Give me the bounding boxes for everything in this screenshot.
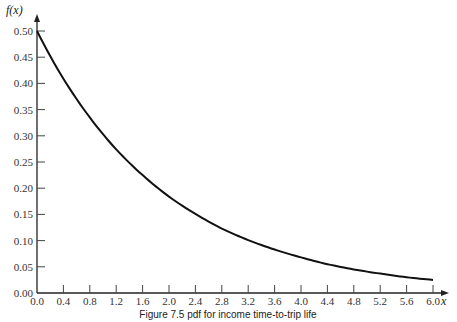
x-tick-label: 5.6	[400, 295, 414, 307]
y-axis-arrow-icon	[34, 14, 40, 22]
pdf-chart: 0.000.050.100.150.200.250.300.350.400.45…	[0, 0, 457, 322]
x-tick-label: 6.0	[426, 295, 440, 307]
y-tick-label: 0.50	[14, 25, 34, 37]
y-tick-label: 0.35	[14, 104, 34, 116]
x-tick-label: 1.6	[136, 295, 150, 307]
x-tick-label: 0.4	[57, 295, 71, 307]
y-tick-label: 0.30	[14, 130, 34, 142]
figure-caption: Figure 7.5 pdf for income time-to-trip l…	[139, 309, 317, 320]
y-axis-title: f(x)	[6, 3, 23, 17]
x-tick-label: 3.6	[268, 295, 282, 307]
x-tick-label: 4.0	[294, 295, 308, 307]
y-tick-label: 0.05	[14, 261, 34, 273]
x-tick-label: 2.8	[215, 295, 229, 307]
x-tick-label: 4.4	[321, 295, 335, 307]
x-tick-label: 2.4	[189, 295, 203, 307]
y-tick-label: 0.25	[14, 156, 34, 168]
y-tick-label: 0.40	[14, 77, 34, 89]
x-tick-label: 2.0	[162, 295, 176, 307]
x-tick-label: 4.8	[347, 295, 361, 307]
x-tick-label: 3.2	[241, 295, 255, 307]
x-axis-title: x	[440, 294, 447, 308]
x-tick-label: 0.0	[30, 295, 44, 307]
series-line-0	[37, 31, 433, 280]
y-tick-label: 0.20	[14, 182, 34, 194]
x-tick-label: 0.8	[83, 295, 97, 307]
x-tick-label: 5.2	[373, 295, 387, 307]
y-tick-label: 0.10	[14, 235, 34, 247]
x-tick-label: 1.2	[109, 295, 123, 307]
y-tick-label: 0.15	[14, 208, 34, 220]
y-tick-label: 0.45	[14, 51, 34, 63]
